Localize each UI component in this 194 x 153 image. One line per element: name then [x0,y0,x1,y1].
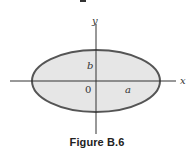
ellipse-figure: y x b a 0 Figure B.6 [0,0,194,153]
y-axis-label: y [91,15,98,26]
ellipse-diagram: y x b a 0 [0,0,194,153]
figure-caption-text: Figure B.6 [70,136,125,148]
origin-label: 0 [85,84,91,95]
x-axis-label: x [180,75,186,86]
semi-major-label-a: a [125,84,131,95]
semi-minor-label-b: b [87,60,93,71]
figure-caption: Figure B.6 [0,136,194,148]
